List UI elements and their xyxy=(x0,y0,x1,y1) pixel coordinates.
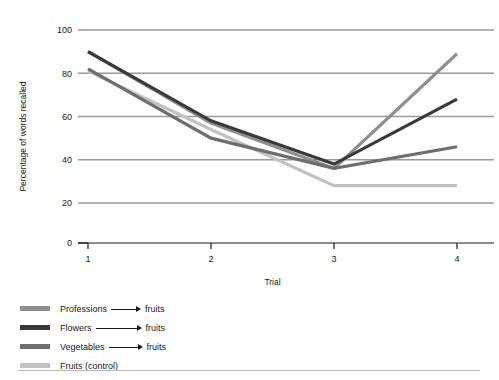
arrow-icon xyxy=(109,342,143,351)
legend-label-fruits-control: Fruits (control) xyxy=(60,361,118,371)
line-chart: 0204060801001234TrialPercentage of words… xyxy=(0,0,499,300)
y-tick-label-0: 0 xyxy=(67,238,72,248)
x-tick-label-4: 4 xyxy=(454,254,459,264)
y-tick-label-20: 20 xyxy=(62,198,72,208)
y-tick-label-80: 80 xyxy=(62,69,72,79)
legend-swatch-professions xyxy=(20,306,50,311)
legend-label-to: fruits xyxy=(147,342,167,352)
legend-label-vegetables: Vegetables fruits xyxy=(60,342,166,352)
x-axis-title: Trial xyxy=(264,277,280,287)
chart-legend: Professions fruits Flowers fruits Vegeta… xyxy=(20,299,480,375)
legend-swatch-fruits-control xyxy=(20,363,50,368)
legend-swatch-vegetables xyxy=(20,344,50,349)
y-tick-label-40: 40 xyxy=(62,155,72,165)
legend-label-to: fruits xyxy=(146,323,166,333)
y-tick-label-60: 60 xyxy=(62,112,72,122)
arrow-icon xyxy=(96,323,142,332)
legend-label-flowers: Flowers fruits xyxy=(60,323,165,333)
series-line-0 xyxy=(88,52,457,169)
chart-plot-area: 0204060801001234TrialPercentage of words… xyxy=(0,0,499,300)
x-tick-label-1: 1 xyxy=(85,254,90,264)
legend-label-from: Flowers xyxy=(60,323,92,333)
legend-item-vegetables: Vegetables fruits xyxy=(20,337,480,356)
legend-label-from: Vegetables xyxy=(60,342,105,352)
legend-label-professions: Professions fruits xyxy=(60,304,165,314)
arrow-icon xyxy=(111,304,141,313)
legend-item-professions: Professions fruits xyxy=(20,299,480,318)
x-tick-label-2: 2 xyxy=(208,254,213,264)
legend-label-from: Fruits (control) xyxy=(60,361,118,371)
y-axis-title: Percentage of words recalled xyxy=(18,81,28,191)
y-tick-label-100: 100 xyxy=(57,25,72,35)
legend-label-to: fruits xyxy=(145,304,165,314)
legend-item-flowers: Flowers fruits xyxy=(20,318,480,337)
figure-container: 0204060801001234TrialPercentage of words… xyxy=(0,0,499,380)
legend-item-fruits-control: Fruits (control) xyxy=(20,356,480,375)
x-tick-label-3: 3 xyxy=(331,254,336,264)
footer-divider xyxy=(18,370,480,371)
legend-label-from: Professions xyxy=(60,304,107,314)
legend-swatch-flowers xyxy=(20,325,50,330)
